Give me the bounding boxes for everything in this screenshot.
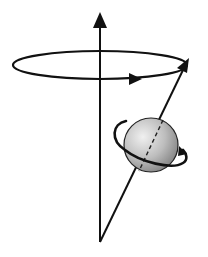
axis-arrowhead-icon xyxy=(93,12,107,28)
precession-diagram xyxy=(0,0,208,257)
spinning-sphere xyxy=(115,118,187,172)
ellipse-direction-arrow-icon xyxy=(129,73,142,85)
vertical-axis xyxy=(93,12,107,242)
